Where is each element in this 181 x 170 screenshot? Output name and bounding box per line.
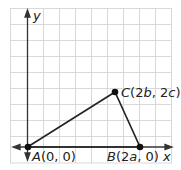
coordinate-plane: y x A(0, 0) B(2a, 0) C(2b, 2c) [0,0,181,170]
y-axis-down-arrow-icon [25,153,30,160]
point-c [112,89,119,96]
y-axis-label: y [32,8,41,23]
point-b-label: B(2a, 0) [107,149,159,164]
y-axis-up-arrow-icon [25,10,30,17]
x-axis-left-arrow-icon [13,145,20,150]
point-a-label: A(0, 0) [31,149,76,164]
point-c-label: C(2b, 2c) [121,85,180,100]
point-a [25,144,32,151]
x-axis-label: x [162,149,171,164]
